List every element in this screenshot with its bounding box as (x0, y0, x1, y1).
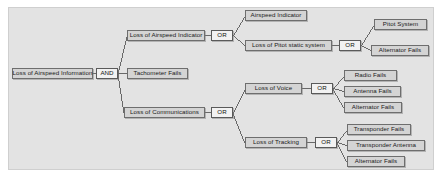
node-loss-of-communications[interactable]: Loss of Communications (124, 107, 205, 118)
node-transponder-fails[interactable]: Transponder Fails (347, 124, 411, 135)
gate-or-airspeed-indicator[interactable]: OR (211, 30, 233, 41)
gate-or-tracking[interactable]: OR (315, 137, 337, 148)
gate-or-pitot-static[interactable]: OR (339, 40, 361, 51)
node-alternator-fails-voice[interactable]: Alternator Fails (344, 102, 402, 113)
node-loss-of-tracking[interactable]: Loss of Tracking (245, 137, 307, 148)
node-loss-of-pitot-static-system[interactable]: Loss of Pitot static system (245, 40, 332, 51)
fault-tree-diagram: Loss of Airspeed Information AND Loss of… (0, 0, 441, 177)
gate-or-voice[interactable]: OR (311, 83, 333, 94)
node-airspeed-indicator[interactable]: Airspeed Indicator (245, 10, 307, 21)
node-loss-of-voice[interactable]: Loss of Voice (245, 83, 302, 94)
node-transponder-antenna[interactable]: Transponder Antenna (347, 140, 425, 151)
gate-or-communications[interactable]: OR (211, 107, 233, 118)
node-tachometer-fails[interactable]: Tachometer Fails (127, 68, 188, 79)
node-radio-fails[interactable]: Radio Fails (344, 70, 397, 81)
node-antenna-fails[interactable]: Antenna Fails (344, 86, 401, 97)
node-alternator-fails-tracking[interactable]: Alternator Fails (347, 156, 405, 167)
node-loss-of-airspeed-indicator[interactable]: Loss of Airspeed Indicator (127, 30, 205, 41)
gate-and-root[interactable]: AND (96, 68, 118, 79)
node-pitot-system[interactable]: Pitot System (374, 19, 427, 30)
node-alternator-fails-pitot[interactable]: Alternator Fails (371, 45, 429, 56)
node-loss-of-airspeed-information[interactable]: Loss of Airspeed Information (12, 68, 93, 79)
